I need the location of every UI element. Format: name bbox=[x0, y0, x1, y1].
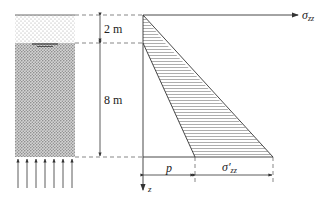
effective-stress-label: σ′zz bbox=[222, 161, 237, 175]
bottom-layer-thickness-label: 8 m bbox=[104, 94, 122, 106]
soil-column bbox=[15, 15, 75, 157]
top-layer-thickness-label: 2 m bbox=[104, 23, 122, 35]
pore-pressure-label: p bbox=[166, 162, 172, 174]
z-axis-label: z bbox=[148, 185, 152, 194]
soil-stress-diagram: 2 m 8 m σzz z p σ′zz bbox=[0, 0, 321, 201]
saturated-soil-layer bbox=[15, 43, 75, 157]
stress-distribution bbox=[143, 15, 273, 157]
seepage-arrows bbox=[18, 159, 72, 188]
sigma-axis-label: σzz bbox=[302, 9, 314, 23]
dry-soil-layer bbox=[15, 15, 75, 43]
diagram-graphics bbox=[0, 0, 321, 201]
